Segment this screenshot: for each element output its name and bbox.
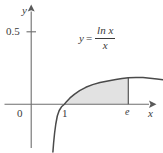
y-axis-arrowhead	[28, 5, 35, 12]
x-axis-label: x	[148, 108, 153, 119]
plot-area	[0, 0, 163, 153]
equation-fraction: ln x x	[95, 25, 115, 51]
equation-lhs: y	[79, 32, 84, 44]
equation-equals-sign: =	[86, 32, 92, 44]
equation-numerator: ln x	[95, 25, 115, 38]
function-equation-label: y = ln x x	[79, 25, 115, 51]
y-axis-label: y	[22, 5, 27, 16]
y-tick-label-0-5: 0.5	[6, 26, 20, 37]
x-tick-label-e: e	[125, 107, 129, 117]
figure-ln-x-over-x: y x 0.5 0 1 e y = ln x x	[0, 0, 163, 153]
x-tick-label-1: 1	[62, 108, 68, 119]
equation-denominator: x	[101, 39, 110, 52]
x-tick-label-0: 0	[17, 108, 23, 119]
shaded-area-path	[64, 78, 128, 105]
